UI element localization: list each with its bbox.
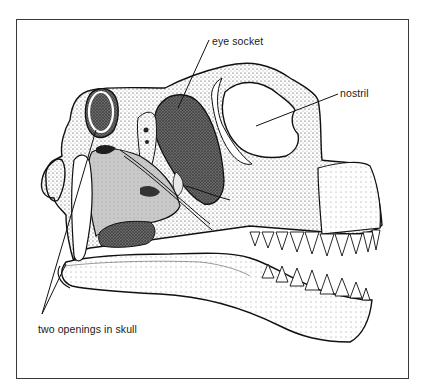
label-two-openings: two openings in skull <box>38 323 137 335</box>
label-nostril: nostril <box>340 87 369 99</box>
label-eye-socket: eye socket <box>212 35 263 47</box>
upper-teeth <box>250 230 380 256</box>
